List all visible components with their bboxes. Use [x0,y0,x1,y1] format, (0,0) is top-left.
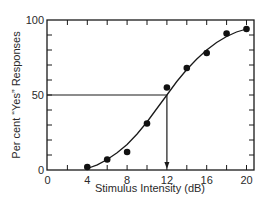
x-axis-title: Stimulus Intensity (dB) [95,182,205,194]
y-tick-label: 100 [26,14,44,26]
psychometric-chart: 048121620 050100 Stimulus Intensity (dB)… [0,0,267,207]
data-point [203,50,210,57]
data-point [104,156,111,163]
y-tick-label: 50 [32,89,44,101]
data-point [243,26,250,33]
data-point [164,84,171,91]
data-point [124,149,131,156]
arrow-down-icon [164,162,169,169]
data-point [84,164,91,171]
data-point [144,120,151,127]
data-point [223,30,230,37]
y-axis-tick-labels: 050100 [26,14,44,176]
x-tick-label: 4 [84,174,90,186]
data-point [184,65,191,72]
y-axis-title: Per cent “Yes” Responses [10,31,22,159]
x-tick-label: 20 [240,174,252,186]
y-tick-label: 0 [38,164,44,176]
x-tick-label: 0 [44,174,50,186]
